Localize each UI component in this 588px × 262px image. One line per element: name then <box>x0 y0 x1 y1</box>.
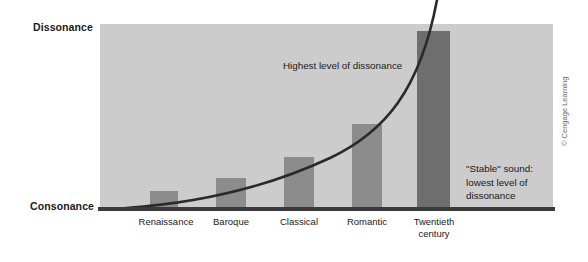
category-label-twentieth-century: Twentieth century <box>405 216 463 240</box>
annotation-stable-line-2: lowest level of <box>466 176 533 190</box>
category-label-baroque: Baroque <box>205 216 257 228</box>
axis-label-dissonance: Dissonance <box>33 21 93 33</box>
figure-root: Dissonance Consonance Renaissance Baroqu… <box>0 0 588 262</box>
category-label-romantic: Romantic <box>341 216 393 228</box>
bar-classical <box>284 157 314 208</box>
annotation-stable-sound: "Stable" sound: lowest level of dissonan… <box>466 162 533 203</box>
copyright-credit: © Cengage Learning <box>560 77 569 146</box>
bar-twentieth-century <box>417 31 450 208</box>
axis-label-consonance: Consonance <box>30 200 94 212</box>
category-label-line-2: century <box>418 228 449 239</box>
bar-baroque <box>216 178 246 208</box>
category-label-renaissance: Renaissance <box>133 216 199 228</box>
bar-romantic <box>352 124 382 208</box>
category-label-line-1: Twentieth <box>414 216 455 227</box>
bar-renaissance <box>150 191 178 208</box>
annotation-stable-line-1: "Stable" sound: <box>466 162 533 176</box>
category-label-classical: Classical <box>272 216 326 228</box>
annotation-highest-dissonance: Highest level of dissonance <box>283 60 402 71</box>
annotation-stable-line-3: dissonance <box>466 189 533 203</box>
x-axis-line <box>98 207 555 211</box>
